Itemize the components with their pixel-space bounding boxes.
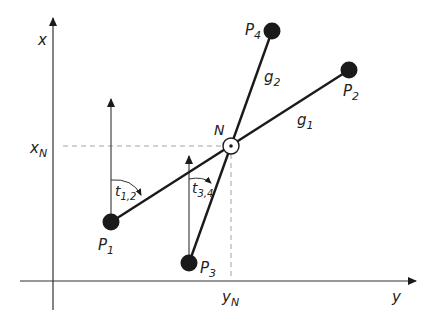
point-p3 [181,255,198,272]
point-p1 [103,214,120,231]
intersection-center-dot [229,144,233,148]
axis-label-x: x [37,31,47,49]
label-g2: g2 [264,68,281,89]
label-yn: yN [221,288,239,309]
point-p4 [264,23,281,40]
label-p1: P1 [98,236,114,257]
label-p2: P2 [343,82,359,103]
label-n: N [214,122,225,138]
label-p4: P4 [245,21,261,42]
diagram-canvas: x y xN yN N P1 P2 P3 P4 g1 g2 t1,2 t3,4 [0,0,433,317]
label-xn: xN [29,139,47,160]
label-g1: g1 [297,111,314,132]
axis-label-y: y [391,288,402,306]
point-p2 [341,62,358,79]
label-p3: P3 [200,259,216,280]
